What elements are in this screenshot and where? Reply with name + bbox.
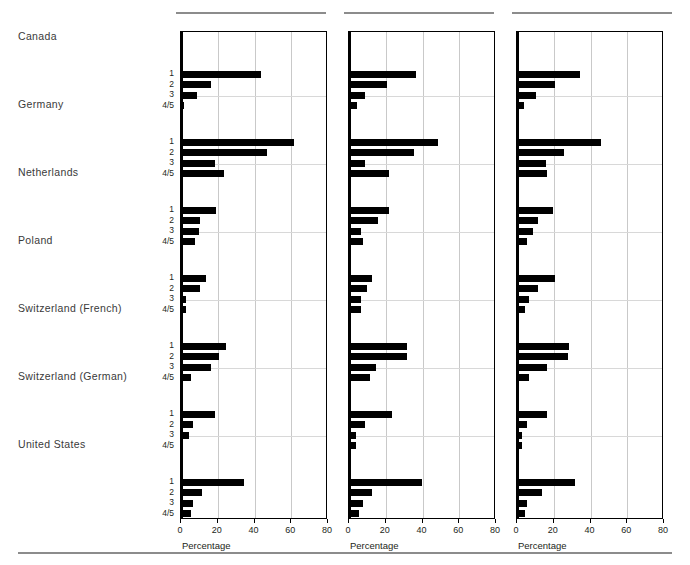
- bar: [518, 275, 555, 282]
- bar: [182, 139, 294, 146]
- bar: [182, 479, 244, 486]
- bar: [350, 353, 407, 360]
- bar: [518, 217, 538, 224]
- bar: [518, 149, 564, 156]
- country-label-switzerland-german: Switzerland (German): [18, 370, 127, 382]
- x-axis-tick-label: 20: [548, 525, 558, 535]
- category-tick-label: 4/5: [156, 441, 174, 449]
- x-axis-tick-label: 40: [416, 525, 426, 535]
- chart-panel-3: [516, 31, 663, 519]
- bar: [350, 275, 372, 282]
- gridline-horizontal: [181, 96, 326, 97]
- bar: [350, 479, 422, 486]
- x-axis-tick-label: 0: [345, 525, 350, 535]
- bar: [182, 149, 267, 156]
- gridline-horizontal: [349, 96, 494, 97]
- gridline-vertical: [591, 32, 592, 518]
- x-axis-tick-label: 40: [584, 525, 594, 535]
- x-axis-tick-label: 40: [248, 525, 258, 535]
- bar: [518, 411, 547, 418]
- bar: [518, 421, 527, 428]
- category-tick-label: 2: [156, 352, 174, 360]
- bar: [518, 374, 529, 381]
- bar: [350, 306, 361, 313]
- x-axis-tick: [590, 519, 591, 523]
- category-tick-label: 3: [156, 430, 174, 438]
- category-tick-label: 3: [156, 294, 174, 302]
- category-tick-label: 4/5: [156, 509, 174, 517]
- x-axis-tick: [385, 519, 386, 523]
- bar: [182, 364, 211, 371]
- bar: [518, 353, 568, 360]
- country-label-switzerland-french: Switzerland (French): [18, 302, 122, 314]
- category-tick-label: 1: [156, 477, 174, 485]
- gridline-vertical: [291, 32, 292, 518]
- bar: [182, 442, 183, 449]
- country-label-netherlands: Netherlands: [18, 166, 78, 178]
- x-axis-tick: [553, 519, 554, 523]
- figure-root: Canada1234/5Germany1234/5Netherlands1234…: [0, 0, 690, 565]
- category-tick-label: 1: [156, 409, 174, 417]
- bar: [350, 228, 361, 235]
- category-tick-label: 3: [156, 362, 174, 370]
- bar: [518, 296, 529, 303]
- bar: [350, 238, 363, 245]
- bar: [350, 139, 438, 146]
- x-axis-tick: [348, 519, 349, 523]
- bar: [350, 102, 357, 109]
- bar: [182, 238, 195, 245]
- gridline-vertical: [459, 32, 460, 518]
- bar: [518, 170, 547, 177]
- x-axis-tick: [626, 519, 627, 523]
- bar: [182, 343, 226, 350]
- bar: [182, 489, 202, 496]
- category-tick-label: 2: [156, 80, 174, 88]
- bar: [518, 343, 569, 350]
- bar: [518, 364, 547, 371]
- panel-3-top-rule: [512, 12, 672, 14]
- x-axis-tick: [516, 519, 517, 523]
- x-axis-tick: [290, 519, 291, 523]
- x-axis-tick: [180, 519, 181, 523]
- bar: [518, 479, 575, 486]
- category-tick-label: 4/5: [156, 305, 174, 313]
- x-axis-tick-label: 60: [453, 525, 463, 535]
- bar: [182, 285, 200, 292]
- gridline-horizontal: [517, 436, 662, 437]
- bar: [182, 275, 206, 282]
- category-tick-label: 1: [156, 273, 174, 281]
- x-axis-tick-label: 60: [285, 525, 295, 535]
- bar: [182, 421, 193, 428]
- gridline-horizontal: [517, 300, 662, 301]
- country-label-germany: Germany: [18, 98, 64, 110]
- bar: [518, 102, 524, 109]
- bar: [518, 238, 527, 245]
- bar: [182, 207, 216, 214]
- category-tick-label: 1: [156, 341, 174, 349]
- x-axis-tick-label: 80: [322, 525, 332, 535]
- bar: [518, 432, 522, 439]
- bar: [350, 296, 361, 303]
- category-tick-label: 3: [156, 226, 174, 234]
- x-axis-title: Percentage: [518, 540, 567, 551]
- gridline-horizontal: [349, 436, 494, 437]
- category-tick-label: 3: [156, 158, 174, 166]
- bar: [518, 228, 533, 235]
- plot-area: [348, 31, 495, 519]
- category-tick-label: 4/5: [156, 169, 174, 177]
- gridline-horizontal: [181, 232, 326, 233]
- x-axis-tick-label: 0: [513, 525, 518, 535]
- bar: [182, 71, 261, 78]
- category-tick-label: 4/5: [156, 101, 174, 109]
- bar: [350, 489, 372, 496]
- bar: [350, 343, 407, 350]
- x-axis-title: Percentage: [350, 540, 399, 551]
- gridline-horizontal: [349, 232, 494, 233]
- bar: [182, 411, 215, 418]
- x-axis-tick: [217, 519, 218, 523]
- country-label-poland: Poland: [18, 234, 53, 246]
- category-tick-label: 2: [156, 420, 174, 428]
- bar: [350, 285, 367, 292]
- bar: [518, 489, 542, 496]
- chart-panel-2: [348, 31, 495, 519]
